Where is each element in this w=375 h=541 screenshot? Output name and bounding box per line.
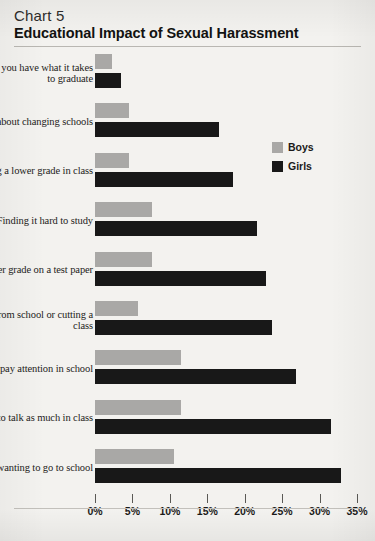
bar-boys bbox=[95, 449, 174, 464]
bar-pair bbox=[95, 344, 375, 393]
chart-legend: Boys Girls bbox=[272, 140, 314, 178]
bar-boys bbox=[95, 103, 129, 118]
axis-tick bbox=[170, 494, 171, 503]
axis-tick bbox=[95, 494, 96, 503]
category-label: Making a lower grade in class bbox=[0, 166, 93, 177]
category-label: Finding it hard to study bbox=[0, 215, 93, 226]
axis-tick bbox=[245, 494, 246, 503]
bar-boys bbox=[95, 54, 112, 69]
axis-tick bbox=[282, 494, 283, 503]
legend-item-boys: Boys bbox=[272, 140, 314, 155]
bar-girls bbox=[95, 271, 266, 286]
bar-girls bbox=[95, 369, 296, 384]
category-label: Thinking about changing schools bbox=[0, 116, 93, 127]
axis-tick bbox=[132, 494, 133, 503]
bar-girls bbox=[95, 73, 121, 88]
category-label: Making a lower grade on a test paper bbox=[0, 265, 93, 276]
chart-group: Finding it hard to study bbox=[0, 196, 375, 245]
category-label: Not wanting to go to school bbox=[0, 462, 93, 473]
bar-pair bbox=[95, 246, 375, 295]
bar-boys bbox=[95, 252, 152, 267]
bar-boys bbox=[95, 301, 138, 316]
axis-tick-label: 30% bbox=[309, 505, 330, 517]
axis-tick-label: 20% bbox=[234, 505, 255, 517]
bar-girls bbox=[95, 172, 233, 187]
axis-tick-label: 35% bbox=[346, 505, 367, 517]
axis-tick-label: 10% bbox=[159, 505, 180, 517]
bar-pair bbox=[95, 147, 375, 196]
bar-boys bbox=[95, 202, 152, 217]
chart-group: Not wanting to talk as much in class bbox=[0, 394, 375, 443]
axis-tick-label: 15% bbox=[197, 505, 218, 517]
chart-group: Finding it hard to pay attention in scho… bbox=[0, 344, 375, 393]
chart-plot-area: Doubting whether you have what it takes … bbox=[0, 48, 375, 493]
axis-tick-label: 0% bbox=[87, 505, 102, 517]
x-axis: 0%5%10%15%20%25%30%35% bbox=[0, 493, 375, 533]
bar-pair bbox=[95, 443, 375, 492]
bar-pair bbox=[95, 196, 375, 245]
axis-tick bbox=[320, 494, 321, 503]
category-label: Not wanting to talk as much in class bbox=[0, 413, 93, 424]
bar-girls bbox=[95, 122, 219, 137]
legend-item-girls: Girls bbox=[272, 159, 314, 174]
legend-label-girls: Girls bbox=[288, 161, 312, 172]
chart-group: Thinking about changing schools bbox=[0, 97, 375, 146]
bar-girls bbox=[95, 419, 331, 434]
bar-pair bbox=[95, 97, 375, 146]
legend-label-boys: Boys bbox=[288, 142, 314, 153]
chart-group: Making a lower grade on a test paper bbox=[0, 246, 375, 295]
bar-girls bbox=[95, 468, 341, 483]
bar-pair bbox=[95, 295, 375, 344]
axis-tick bbox=[207, 494, 208, 503]
chart-page: Chart 5 Educational Impact of Sexual Har… bbox=[0, 0, 375, 541]
bar-boys bbox=[95, 350, 181, 365]
category-label: Finding it hard to pay attention in scho… bbox=[0, 363, 93, 374]
category-label: Doubting whether you have what it takes … bbox=[0, 61, 93, 84]
chart-number: Chart 5 bbox=[14, 8, 362, 24]
header-divider bbox=[14, 46, 361, 47]
bar-girls bbox=[95, 320, 272, 335]
legend-swatch-girls bbox=[272, 161, 283, 172]
axis-tick-label: 5% bbox=[125, 505, 140, 517]
chart-group: Making a lower grade in class bbox=[0, 147, 375, 196]
chart-header: Chart 5 Educational Impact of Sexual Har… bbox=[14, 8, 362, 42]
axis-tick-label: 25% bbox=[272, 505, 293, 517]
page-title: Educational Impact of Sexual Harassment bbox=[14, 25, 362, 42]
category-label: Staying home from school or cutting a cl… bbox=[0, 308, 93, 331]
chart-group: Staying home from school or cutting a cl… bbox=[0, 295, 375, 344]
bar-girls bbox=[95, 221, 257, 236]
bar-pair bbox=[95, 48, 375, 97]
footer-divider bbox=[14, 508, 361, 509]
legend-swatch-boys bbox=[272, 142, 283, 153]
chart-group: Doubting whether you have what it takes … bbox=[0, 48, 375, 97]
chart-group: Not wanting to go to school bbox=[0, 443, 375, 492]
bar-boys bbox=[95, 153, 129, 168]
axis-tick bbox=[357, 494, 358, 503]
bar-pair bbox=[95, 394, 375, 443]
bar-boys bbox=[95, 400, 181, 415]
